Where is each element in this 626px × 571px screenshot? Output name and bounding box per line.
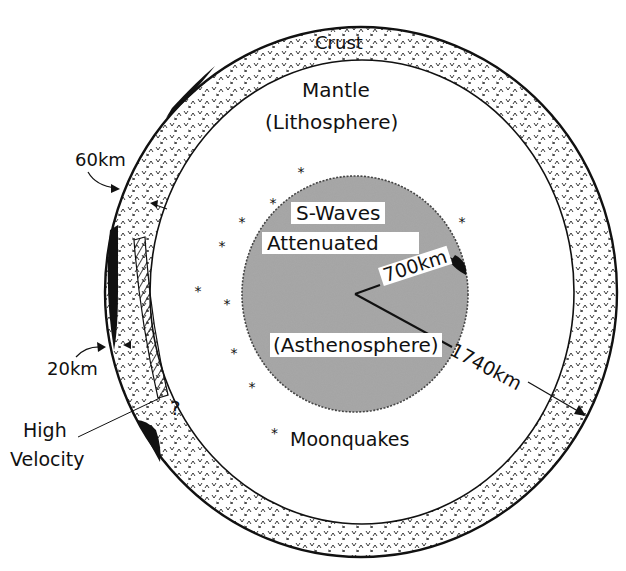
high-velocity-label-line2: Velocity <box>10 450 85 469</box>
lithosphere-label: (Lithosphere) <box>265 112 398 132</box>
moonquake-marker: * <box>239 214 246 230</box>
asthenosphere-label: (Asthenosphere) <box>270 333 442 357</box>
moonquake-marker: * <box>298 164 305 180</box>
crust-label: Crust <box>315 34 363 52</box>
high-velocity-label-line1: High <box>23 421 67 440</box>
attenuated-label: Attenuated <box>262 232 419 254</box>
crust-20km-label: 20km <box>47 360 98 378</box>
moonquake-marker: * <box>219 238 226 254</box>
moonquake-marker: * <box>224 296 231 312</box>
mantle-label: Mantle <box>302 80 370 100</box>
moonquakes-legend-symbol: * <box>271 426 278 440</box>
moonquake-marker: * <box>270 195 277 211</box>
question-mark: ? <box>170 398 181 418</box>
moonquake-marker: * <box>231 345 238 361</box>
moonquakes-legend-label: Moonquakes <box>290 430 409 449</box>
crust-60km-label: 60km <box>75 151 126 169</box>
s-waves-label: S-Waves <box>291 202 385 224</box>
moonquake-marker: * <box>249 379 256 395</box>
moon-structure-diagram: * * * * * * * * * Crust Mantle (Lithosph… <box>0 0 626 571</box>
moonquake-marker: * <box>195 283 202 299</box>
moonquake-marker: * <box>459 214 466 230</box>
